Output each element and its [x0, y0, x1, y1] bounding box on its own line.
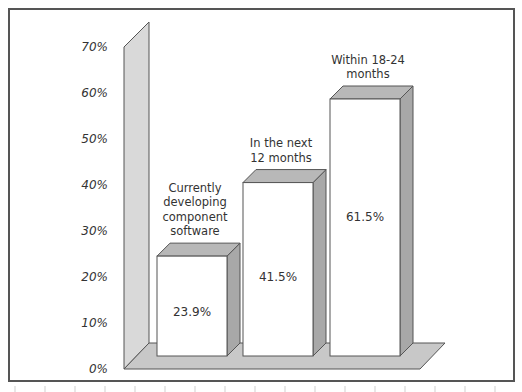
y-tick-label: 40%: [81, 178, 108, 192]
cropped-caption-fragment: [0, 386, 522, 392]
bar-top: [330, 86, 413, 99]
y-tick-label: 0%: [89, 362, 108, 376]
category-label: Currently: [168, 181, 221, 195]
bar-side: [227, 243, 240, 356]
bar-value-label: 41.5%: [259, 270, 297, 284]
y-tick-label: 30%: [81, 224, 108, 238]
back-wall: [124, 22, 149, 369]
bar-top: [243, 170, 326, 183]
category-label: Within 18-24: [331, 53, 405, 67]
bar-chart-3d: 0%10%20%30%40%50%60%70%23.9%Currentlydev…: [0, 0, 522, 392]
y-tick-label: 60%: [81, 86, 108, 100]
bar-value-label: 23.9%: [173, 305, 211, 319]
bar-value-label: 61.5%: [346, 210, 384, 224]
category-label: months: [346, 67, 389, 81]
y-tick-label: 70%: [81, 40, 108, 54]
bar-side: [313, 170, 326, 356]
y-tick-label: 20%: [81, 270, 108, 284]
category-label: In the next: [250, 136, 313, 150]
y-tick-label: 10%: [81, 316, 108, 330]
bar-top: [157, 243, 240, 256]
category-label: developing: [163, 195, 227, 209]
category-label: 12 months: [250, 151, 312, 165]
y-tick-label: 50%: [81, 132, 108, 146]
category-label: component: [162, 210, 228, 224]
bar-side: [400, 86, 413, 356]
category-label: software: [170, 224, 219, 238]
bar-front: [330, 99, 400, 356]
